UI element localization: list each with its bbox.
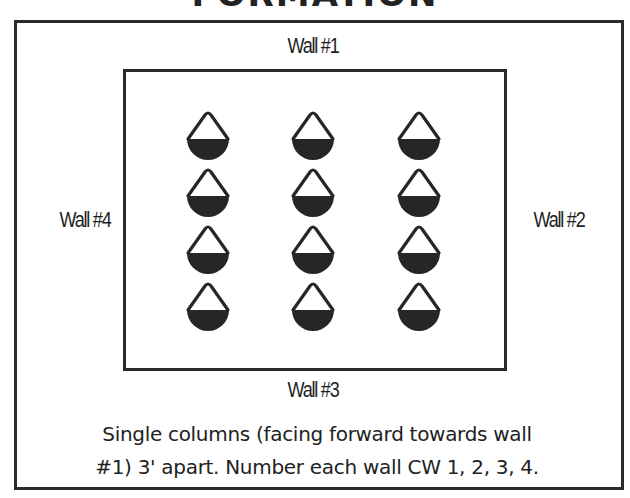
diagram-title: FORMATION	[0, 0, 630, 12]
caption-line-1: Single columns (facing forward towards w…	[17, 418, 617, 451]
person-figure-icon	[396, 168, 442, 218]
person-figure-icon	[185, 168, 231, 218]
person-figure-icon	[396, 111, 442, 161]
person-figure-icon	[290, 225, 336, 275]
person-figure-icon	[396, 282, 442, 332]
person-figure-icon	[396, 225, 442, 275]
wall-1-label: Wall #1	[276, 34, 350, 58]
person-figure-icon	[185, 282, 231, 332]
person-figure-icon	[290, 282, 336, 332]
person-figure-icon	[290, 111, 336, 161]
wall-4-label: Wall #4	[48, 208, 122, 232]
person-figure-icon	[185, 225, 231, 275]
person-figure-icon	[185, 111, 231, 161]
wall-2-label: Wall #2	[522, 208, 596, 232]
caption-line-2: #1) 3' apart. Number each wall CW 1, 2, …	[17, 451, 617, 484]
formation-caption: Single columns (facing forward towards w…	[17, 418, 617, 484]
person-figure-icon	[290, 168, 336, 218]
wall-3-label: Wall #3	[276, 378, 350, 402]
